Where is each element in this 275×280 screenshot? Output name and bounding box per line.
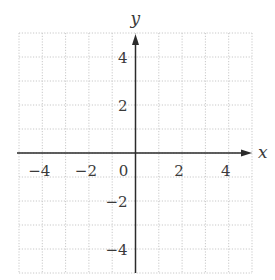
axes [17,34,252,273]
x-tick-label: 0 [119,162,129,180]
x-tick-label: −2 [75,162,97,180]
x-tick-label: 2 [174,162,184,180]
y-axis-arrow-icon [132,34,139,45]
x-tick-label: −4 [28,162,50,180]
y-axis-label: y [130,8,141,28]
y-tick-label: 4 [118,49,128,67]
y-tick-label: −4 [105,241,127,259]
y-tick-label: 2 [118,97,128,115]
y-tick-label: −2 [105,193,127,211]
x-axis-arrow-icon [241,150,252,157]
coordinate-plane: −4−202442−2−4 x y [0,0,275,280]
x-tick-label: 4 [221,162,231,180]
x-axis-label: x [258,142,268,162]
